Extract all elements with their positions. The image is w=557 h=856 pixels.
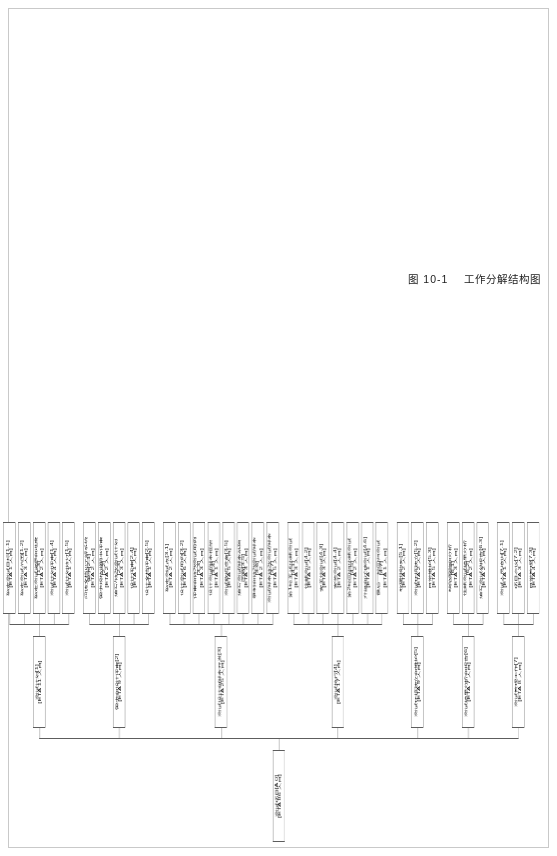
- node-eta: [ETA 17 人日]: [338, 660, 341, 704]
- wbs-node-4-3: 安全性测试[4.3][ETA 3 人日]: [317, 522, 329, 614]
- node-eta: [ETA 1 人日]: [134, 548, 137, 588]
- node-eta: [ETA 3 人日]: [245, 548, 248, 588]
- node-eta: [ETA 9 人日]: [119, 662, 122, 702]
- wbs-node-1-1: 确定测试目标[1.1][ETA 1 人日]: [4, 522, 16, 614]
- wbs-node-4-1: 第1轮全新功能测试[4.1][ETA 3 人日]: [287, 522, 299, 614]
- node-eta: [ETA 2 人日]: [169, 548, 172, 588]
- figure-caption-title: 工作分解结构图: [464, 273, 541, 285]
- node-eta: [ETA 2 人日]: [260, 548, 263, 588]
- node-eta: [ETA 1 人日]: [10, 548, 13, 588]
- node-eta: [ETA 86 人日]: [279, 774, 282, 818]
- node-eta: [ETA 3 人日]: [323, 548, 326, 588]
- wbs-node-4-2: 性能测试[4.2][ETA 5 人日]: [302, 522, 314, 614]
- wbs-node-1-4: 测试计划评审[1.4][ETA 4 人日]: [48, 522, 60, 614]
- wbs-node-5-1: 软硬件购买[5.1][ETA 2 人日]: [397, 522, 409, 614]
- node-eta: [ETA 2 人日]: [41, 548, 44, 588]
- node-eta: [ETA 1 人日]: [384, 548, 387, 588]
- node-eta: [ETA 7 人日]: [468, 662, 471, 702]
- node-eta: [ETA 25 人日]: [221, 660, 224, 704]
- wbs-node-2-2: 需求规格说明书评审[2.2][ETA 2 人日]: [98, 522, 110, 614]
- figure-page: 确定测试目标[1.1][ETA 1 人日]确定测试范围[1.2][ETA 3 人…: [0, 0, 557, 856]
- node-eta: [ETA 1 人日]: [367, 548, 370, 588]
- wbs-branch-7: 测试管理工作[7][ETA 8 人日]: [512, 636, 524, 728]
- node-eta: [ETA 1 人日]: [149, 548, 152, 588]
- node-eta: [ETA 9 人日]: [418, 662, 421, 702]
- wbs-node-1-2: 确定测试范围[1.2][ETA 3 人日]: [18, 522, 30, 614]
- wbs-node-3-5: 测试数据准备[3.5][ETA 5 人日]: [222, 522, 234, 614]
- node-eta: [ETA 3 人日]: [121, 548, 124, 588]
- node-eta: [ETA 2 人日]: [403, 548, 406, 588]
- wbs-branch-4: 测试执行[4][ETA 17 人日]: [332, 636, 344, 728]
- node-eta: [ETA 8 人日]: [518, 662, 521, 702]
- wbs-node-2-1: 阅读文档以了解系统需求[2.1][ETA 2 人日]: [83, 522, 95, 614]
- wbs-branch-6: 测试结果分析和报告[6][ETA 7 人日]: [462, 636, 474, 728]
- wbs-branch-5: 测试环境建立和维护[5][ETA 9 人日]: [412, 636, 424, 728]
- node-eta: [ETA 2 人日]: [106, 548, 109, 588]
- node-eta: [ETA 1 人日]: [69, 548, 72, 588]
- node-eta: [ETA 2 人日]: [338, 548, 341, 588]
- wbs-node-3-4: 设计测试脚本框架[3.4][ETA 1 人日]: [208, 522, 220, 614]
- node-eta: [ETA 1 人日]: [215, 548, 218, 588]
- node-eta: [ETA 3 人日]: [295, 548, 298, 588]
- node-eta: [ETA 2 人日]: [91, 548, 94, 588]
- figure-caption: 图 10-1 工作分解结构图: [408, 0, 541, 557]
- node-eta: [ETA 11 人日]: [39, 660, 42, 703]
- wbs-node-3-3: 评审和修改测试用例[3.3][ETA 3 人日]: [193, 522, 205, 614]
- wbs-branch-1: 测试计划[1][ETA 11 人日]: [33, 636, 45, 728]
- node-eta: [ETA 3 人日]: [201, 548, 204, 588]
- wbs-node-4-6: 升级和迁移测试[4.6][ETA 1 人日]: [361, 522, 373, 614]
- connector-root-spine: [39, 738, 518, 739]
- wbs-node-4-7: 最后一轮回归测试[4.7][ETA 1 人日]: [376, 522, 388, 614]
- node-eta: [ETA 5 人日]: [274, 548, 277, 588]
- node-eta: [ETA 6 人日]: [184, 548, 187, 588]
- wbs-node-1-3: 确定测试资源和进度[1.3][ETA 2 人日]: [33, 522, 45, 614]
- figure-caption-number: 图 10-1: [408, 273, 448, 285]
- node-eta: [ETA 4 人日]: [54, 548, 57, 588]
- wbs-node-4-4: 安装测试[4.4][ETA 2 人日]: [332, 522, 344, 614]
- wbs-branch-3: 测试设计和脚本开发[3][ETA 25 人日]: [215, 636, 227, 728]
- wbs-node-3-1: 确定测试点[3.1][ETA 2 人日]: [163, 522, 175, 614]
- wbs-root-node: 测试项目[A 0][ETA 86 人日]: [273, 750, 285, 842]
- wbs-node-1-5: 测试计划修订[1.5][ETA 1 人日]: [63, 522, 75, 614]
- node-eta: [ETA 5 人日]: [308, 548, 311, 588]
- node-eta: [ETA 5 人日]: [228, 548, 231, 588]
- node-eta: [ETA 3 人日]: [24, 548, 27, 588]
- wbs-node-4-5: 第2轮回归功能测试[4.5][ETA 2 人日]: [346, 522, 358, 614]
- wbs-canvas: 确定测试目标[1.1][ETA 1 人日]确定测试范围[1.2][ETA 3 人…: [0, 0, 200, 856]
- wbs-node-3-2: 设计测试用例[3.2][ETA 6 人日]: [178, 522, 190, 614]
- node-eta: [ETA 2 人日]: [354, 548, 357, 588]
- wbs-node-3-7: 录制和修改测试脚本[3.6][ETA 2 人日]: [252, 522, 264, 614]
- wbs-node-3-6: 编写测试脚本基础函数[3.5][ETA 3 人日]: [237, 522, 249, 614]
- wbs-node-2-3: 编写/修改测试计划[2.3][ETA 3 人日]: [113, 522, 125, 614]
- wbs-branch-2: 需求和设计评审[2][ETA 9 人日]: [113, 636, 125, 728]
- wbs-node-3-8: 测试脚本修改测试脚本[3.7][ETA 5 人日]: [267, 522, 279, 614]
- wbs-node-2-5: 设计文档评审[2.5][ETA 1 人日]: [142, 522, 154, 614]
- wbs-node-2-4: 设计评审[2.4][ETA 1 人日]: [128, 522, 140, 614]
